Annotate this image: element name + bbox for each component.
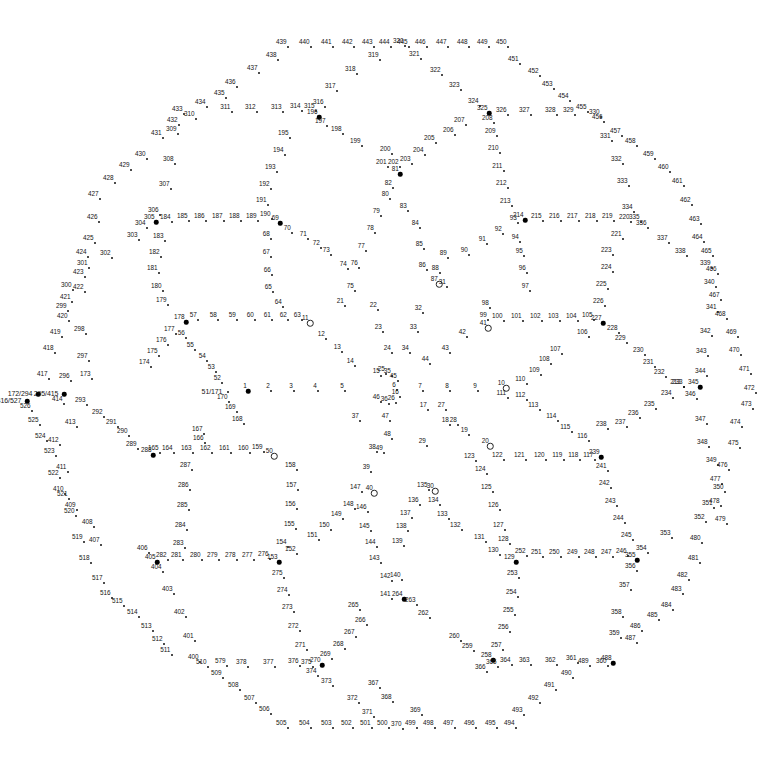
dot-430 bbox=[146, 158, 148, 160]
dot-436 bbox=[236, 86, 238, 88]
dot-label-139: 139 bbox=[392, 538, 402, 544]
dot-label-119: 119 bbox=[552, 452, 562, 458]
dot-label-151: 151 bbox=[307, 532, 317, 538]
dot-label-125: 125 bbox=[481, 484, 491, 490]
dot-403 bbox=[173, 593, 175, 595]
dot-270 bbox=[320, 663, 325, 668]
dot-44 bbox=[429, 363, 431, 365]
dot-label-208: 208 bbox=[482, 115, 492, 121]
dot-352 bbox=[705, 521, 707, 523]
dot-label-167: 167 bbox=[192, 426, 202, 432]
dot-label-447: 447 bbox=[436, 39, 446, 45]
dot-134 bbox=[439, 504, 441, 506]
dot-label-271: 271 bbox=[295, 642, 305, 648]
dot-label-176: 176 bbox=[156, 337, 166, 343]
dot-label-401: 401 bbox=[183, 633, 193, 639]
dot-label-160: 160 bbox=[238, 445, 248, 451]
dot-label-28: 28 bbox=[450, 417, 457, 423]
dot-177 bbox=[175, 333, 177, 335]
dot-259 bbox=[473, 650, 475, 652]
dot-496 bbox=[475, 727, 477, 729]
dot-104 bbox=[577, 320, 579, 322]
dot-110 bbox=[526, 383, 528, 385]
dot-label-117: 117 bbox=[583, 452, 593, 458]
dot-label-168: 168 bbox=[232, 416, 242, 422]
dot-267 bbox=[355, 636, 357, 638]
dot-label-329: 329 bbox=[563, 107, 573, 113]
dot-42 bbox=[466, 336, 468, 338]
dot-438 bbox=[277, 59, 279, 61]
dot-label-278: 278 bbox=[225, 552, 235, 558]
dot-label-63: 63 bbox=[294, 312, 301, 318]
dot-249 bbox=[578, 556, 580, 558]
dot-label-166: 166 bbox=[193, 435, 203, 441]
dot-label-141: 141 bbox=[380, 591, 390, 597]
dot-103 bbox=[559, 320, 561, 322]
dot-label-214: 214 bbox=[513, 212, 523, 218]
dot-label-314: 314 bbox=[290, 103, 300, 109]
dot-480 bbox=[701, 542, 703, 544]
dot-label-223: 223 bbox=[601, 247, 611, 253]
dot-7 bbox=[422, 390, 424, 392]
dot-label-46: 46 bbox=[373, 394, 380, 400]
dot-label-355: 355 bbox=[625, 552, 635, 558]
dot-label-434: 434 bbox=[195, 99, 205, 105]
dot-label-229: 229 bbox=[615, 335, 625, 341]
dot-282 bbox=[167, 559, 169, 561]
dot-label-158: 158 bbox=[285, 462, 295, 468]
dot-label-55: 55 bbox=[187, 342, 194, 348]
dot-label-228: 228 bbox=[607, 325, 617, 331]
dot-492 bbox=[539, 702, 541, 704]
dot-302 bbox=[111, 257, 113, 259]
dot-label-18: 18 bbox=[442, 417, 449, 423]
dot-label-492: 492 bbox=[528, 695, 538, 701]
dot-424 bbox=[87, 256, 89, 258]
dot-89 bbox=[447, 257, 449, 259]
dot-206 bbox=[454, 134, 456, 136]
dot-label-342: 342 bbox=[700, 328, 710, 334]
dot-label-368: 368 bbox=[381, 694, 391, 700]
dot-484 bbox=[672, 609, 674, 611]
dot-437 bbox=[258, 72, 260, 74]
dot-371 bbox=[373, 716, 375, 718]
dot-label-361: 361 bbox=[566, 655, 576, 661]
dot-label-421: 421 bbox=[60, 294, 70, 300]
dot-45 bbox=[397, 380, 399, 382]
dot-107 bbox=[561, 353, 563, 355]
dot-337 bbox=[668, 242, 670, 244]
dot-label-170: 170 bbox=[217, 394, 227, 400]
dot-label-71: 71 bbox=[300, 231, 307, 237]
dot-label-111: 111 bbox=[497, 390, 506, 396]
dot-label-470: 470 bbox=[729, 347, 739, 353]
dot-label-328: 328 bbox=[545, 107, 555, 113]
dot-label-348: 348 bbox=[697, 439, 707, 445]
dot-label-209: 209 bbox=[485, 128, 495, 134]
dot-label-163: 163 bbox=[181, 445, 191, 451]
dot-label-118: 118 bbox=[568, 452, 578, 458]
dot-label-289: 289 bbox=[126, 441, 136, 447]
dot-418 bbox=[54, 352, 56, 354]
dot-312 bbox=[256, 111, 258, 113]
dot-446 bbox=[426, 46, 428, 48]
dot-317 bbox=[336, 90, 338, 92]
dot-label-220: 220 bbox=[619, 214, 629, 220]
dot-label-212: 212 bbox=[496, 180, 506, 186]
dot-235 bbox=[655, 408, 657, 410]
dot-61 bbox=[271, 319, 273, 321]
dot-label-101: 101 bbox=[511, 313, 521, 319]
dot-label-73: 73 bbox=[323, 247, 330, 253]
dot-28 bbox=[457, 424, 459, 426]
dot-label-90: 90 bbox=[461, 247, 468, 253]
dot-189 bbox=[257, 220, 259, 222]
dot-label-498: 498 bbox=[423, 720, 433, 726]
dot-label-507: 507 bbox=[244, 695, 254, 701]
dot-71 bbox=[307, 238, 309, 240]
dot-188 bbox=[240, 220, 242, 222]
dot-132 bbox=[461, 529, 463, 531]
dot-label-190: 190 bbox=[260, 211, 270, 217]
dot-label-23: 23 bbox=[375, 324, 382, 330]
dot-label-104: 104 bbox=[566, 313, 576, 319]
dot-507 bbox=[255, 702, 257, 704]
dot-505 bbox=[287, 727, 289, 729]
dot-362 bbox=[556, 664, 558, 666]
